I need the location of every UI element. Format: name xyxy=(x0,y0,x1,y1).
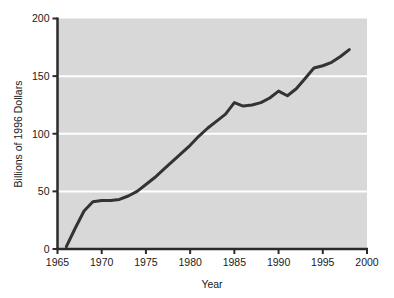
x-axis-title: Year xyxy=(201,278,223,290)
y-axis-title: Billions of 1996 Dollars xyxy=(12,81,24,188)
x-tick-label-1985: 1985 xyxy=(223,256,247,268)
y-tick-label-50: 50 xyxy=(38,185,50,197)
y-tick-label-0: 0 xyxy=(44,243,50,255)
y-tick-label-100: 100 xyxy=(32,128,50,140)
x-tick-label-1980: 1980 xyxy=(178,256,202,268)
y-axis-tick-labels: 050100150200 xyxy=(32,12,50,255)
x-tick-label-1990: 1990 xyxy=(267,256,291,268)
chart-figure: 19651970197519801985199019952000 0501001… xyxy=(0,0,394,298)
x-tick-label-1975: 1975 xyxy=(134,256,158,268)
x-tick-label-2000: 2000 xyxy=(355,256,379,268)
y-tick-label-150: 150 xyxy=(32,70,50,82)
x-tick-label-1995: 1995 xyxy=(311,256,335,268)
x-tick-label-1965: 1965 xyxy=(46,256,70,268)
x-tick-label-1970: 1970 xyxy=(90,256,114,268)
y-tick-label-200: 200 xyxy=(32,12,50,24)
line-chart: 19651970197519801985199019952000 0501001… xyxy=(0,0,394,298)
x-axis-tick-labels: 19651970197519801985199019952000 xyxy=(46,256,379,268)
